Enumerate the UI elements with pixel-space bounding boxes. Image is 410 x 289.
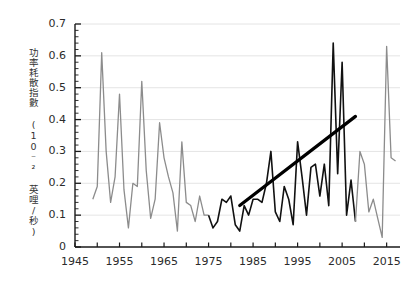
series-line-highlight: [209, 43, 356, 231]
chart-container: 功率耗散指數 (10⁻² 英哩/秒) 0.70.60.50.40.30.20.1…: [0, 0, 410, 289]
series-line-early: [93, 53, 209, 231]
x-axis-tick-label: 1965: [144, 255, 184, 268]
y-axis-tick-label: 0.7: [34, 17, 66, 30]
y-axis-minor-ticks: [75, 24, 81, 247]
series-line-late: [355, 46, 395, 237]
x-axis-tick-label: 1995: [278, 255, 318, 268]
x-axis-tick-label: 1955: [100, 255, 140, 268]
y-axis-tick-label: 0.1: [34, 208, 66, 221]
y-axis-tick-label: 0.4: [34, 113, 66, 126]
y-axis-tick-label: 0.3: [34, 144, 66, 157]
y-axis-tick-label: 0.5: [34, 81, 66, 94]
x-axis-tick-label: 2015: [367, 255, 407, 268]
x-axis-tick-label: 1945: [55, 255, 95, 268]
x-axis-tick-label: 1975: [189, 255, 229, 268]
x-axis-tick-label: 1985: [233, 255, 273, 268]
y-axis-tick-label: 0.6: [34, 49, 66, 62]
x-axis-tick-label: 2005: [322, 255, 362, 268]
y-axis-tick-label: 0: [34, 240, 66, 253]
y-axis-tick-label: 0.2: [34, 176, 66, 189]
